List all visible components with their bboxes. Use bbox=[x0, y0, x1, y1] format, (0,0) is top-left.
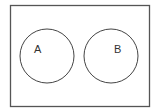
set-b-label: B bbox=[114, 43, 121, 55]
universal-set-rectangle bbox=[11, 6, 150, 107]
venn-diagram: A B bbox=[0, 0, 156, 112]
set-a-label: A bbox=[34, 43, 42, 55]
